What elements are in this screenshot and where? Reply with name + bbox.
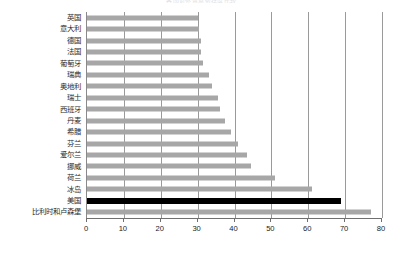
x-tick <box>86 218 87 222</box>
category-label: 芬兰 <box>0 138 84 149</box>
x-tick-label: 60 <box>303 224 311 233</box>
bar-row <box>87 195 381 206</box>
category-label: 英国 <box>0 12 84 23</box>
x-tick-label: 30 <box>192 224 200 233</box>
category-label: 挪威 <box>0 161 84 172</box>
bar <box>87 27 199 32</box>
bar <box>87 50 201 55</box>
bar-row <box>87 81 381 92</box>
x-tick-label: 50 <box>266 224 274 233</box>
category-label: 瑞士 <box>0 92 84 103</box>
bar-row <box>87 46 381 57</box>
bar-row <box>87 161 381 172</box>
category-axis-labels: 英国意大利德国法国葡萄牙瑞典奥地利瑞士西班牙丹麦希腊芬兰爱尔兰挪威荷兰冰岛美国比… <box>0 12 84 218</box>
bar <box>87 84 212 89</box>
bar <box>87 198 341 204</box>
bar <box>87 118 225 123</box>
x-tick-label: 70 <box>340 224 348 233</box>
bar-rows <box>87 12 381 218</box>
x-tick-label: 0 <box>84 224 88 233</box>
gridline <box>382 12 383 218</box>
bar <box>87 107 220 112</box>
category-label: 荷兰 <box>0 172 84 183</box>
bar <box>87 141 238 146</box>
bar-row <box>87 172 381 183</box>
x-tick <box>197 218 198 222</box>
bar-row <box>87 104 381 115</box>
bar <box>87 210 371 215</box>
x-tick-label: 40 <box>229 224 237 233</box>
bar <box>87 175 275 180</box>
bar-row <box>87 69 381 80</box>
category-label: 葡萄牙 <box>0 58 84 69</box>
plot-area <box>86 12 381 218</box>
category-label: 希腊 <box>0 126 84 137</box>
bar <box>87 38 201 43</box>
bar-row <box>87 184 381 195</box>
category-label: 比利时和卢森堡 <box>0 206 84 217</box>
x-tick-label: 10 <box>119 224 127 233</box>
bar-row <box>87 35 381 46</box>
x-tick-label: 80 <box>377 224 385 233</box>
bar-chart: 各国对外贸易依存度比较 英国意大利德国法国葡萄牙瑞典奥地利瑞士西班牙丹麦希腊芬兰… <box>0 0 403 259</box>
category-label: 冰岛 <box>0 184 84 195</box>
x-tick <box>344 218 345 222</box>
x-tick <box>307 218 308 222</box>
bar <box>87 61 203 66</box>
bar-row <box>87 115 381 126</box>
category-label: 奥地利 <box>0 81 84 92</box>
category-label: 意大利 <box>0 23 84 34</box>
bar-row <box>87 206 381 217</box>
category-label: 德国 <box>0 35 84 46</box>
bar <box>87 72 209 77</box>
category-label: 西班牙 <box>0 104 84 115</box>
bar <box>87 15 198 20</box>
category-label: 美国 <box>0 195 84 206</box>
bar-row <box>87 23 381 34</box>
category-label: 瑞典 <box>0 69 84 80</box>
x-tick <box>381 218 382 222</box>
bar-row <box>87 138 381 149</box>
bar <box>87 95 218 100</box>
category-label: 法国 <box>0 46 84 57</box>
x-tick <box>234 218 235 222</box>
bar-row <box>87 58 381 69</box>
x-tick <box>270 218 271 222</box>
bar-row <box>87 12 381 23</box>
bar <box>87 152 247 157</box>
bar-row <box>87 126 381 137</box>
category-label: 丹麦 <box>0 115 84 126</box>
x-tick-label: 20 <box>156 224 164 233</box>
x-tick <box>123 218 124 222</box>
chart-title: 各国对外贸易依存度比较 <box>0 0 403 3</box>
bar-row <box>87 92 381 103</box>
bar <box>87 187 312 192</box>
category-label: 爱尔兰 <box>0 149 84 160</box>
x-axis-ticks: 01020304050607080 <box>0 218 403 248</box>
x-tick <box>160 218 161 222</box>
bar <box>87 164 251 169</box>
bar <box>87 130 231 135</box>
bar-row <box>87 149 381 160</box>
